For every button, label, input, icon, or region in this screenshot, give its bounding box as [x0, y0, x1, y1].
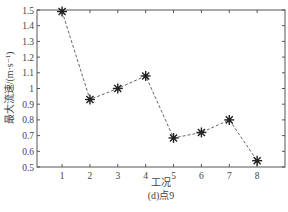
x-tick-label: 1 [60, 171, 65, 181]
x-tick-label: 8 [255, 171, 260, 181]
y-tick-label: 1.2 [22, 53, 34, 63]
x-tick-label: 2 [88, 171, 93, 181]
x-tick-label: 4 [143, 171, 148, 181]
asterisk-marker [57, 7, 67, 17]
data-series [57, 7, 262, 166]
y-tick-label: 1 [29, 84, 34, 94]
y-tick-label: 0.8 [22, 115, 34, 125]
x-tick-label: 6 [199, 171, 204, 181]
y-tick-label: 1.5 [22, 6, 34, 16]
asterisk-marker [169, 133, 179, 143]
x-tick-label: 5 [171, 171, 176, 181]
line-chart: 0.50.60.70.80.911.11.21.31.41.512345678 … [0, 0, 288, 212]
x-tick-label: 3 [115, 171, 120, 181]
y-tick-label: 0.5 [22, 163, 34, 173]
y-tick-label: 0.9 [22, 100, 34, 110]
asterisk-marker [85, 94, 95, 104]
asterisk-marker [196, 127, 206, 137]
y-tick-label: 1.3 [22, 37, 34, 47]
y-axis-label: 最大流速/(m·s⁻¹) [3, 52, 16, 125]
asterisk-marker [113, 84, 123, 94]
plot-frame [37, 10, 285, 167]
figure-caption: (d)点9 [148, 190, 175, 202]
series-line [62, 12, 257, 161]
y-tick-label: 1.4 [22, 21, 34, 31]
x-tick-label: 7 [227, 171, 232, 181]
asterisk-marker [252, 156, 262, 166]
asterisk-marker [224, 115, 234, 125]
y-tick-label: 0.7 [22, 131, 34, 141]
asterisk-marker [141, 71, 151, 81]
x-axis-label: 工况 [151, 177, 171, 188]
y-tick-label: 1.1 [22, 68, 34, 78]
y-tick-label: 0.6 [22, 147, 34, 157]
